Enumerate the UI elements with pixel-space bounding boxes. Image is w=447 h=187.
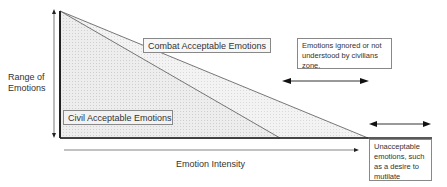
- combat-label: Combat Acceptable Emotions: [148, 41, 266, 51]
- ignored-zone-arrow-icon: [282, 78, 369, 84]
- unacceptable-note-box: Unacceptable emotions, such as a desire …: [369, 139, 432, 181]
- y-axis-label: Range of Emotions: [8, 72, 46, 94]
- y-axis-label-line2: Emotions: [8, 83, 46, 94]
- intensity-arrow-icon: [64, 148, 359, 152]
- x-axis-label: Emotion Intensity: [176, 159, 245, 170]
- unacceptable-zone-arrow-icon: [369, 121, 431, 127]
- civil-label-box: Civil Acceptable Emotions: [63, 110, 173, 125]
- range-arrow-icon: [52, 9, 56, 138]
- ignored-note-box: Emotions ignored or not understood by ci…: [297, 38, 392, 69]
- ignored-note: Emotions ignored or not understood by ci…: [302, 41, 382, 70]
- unacceptable-note: Unacceptable emotions, such as a desire …: [374, 142, 424, 181]
- civil-label: Civil Acceptable Emotions: [68, 113, 172, 123]
- combat-label-box: Combat Acceptable Emotions: [143, 38, 271, 53]
- y-axis-label-line1: Range of: [8, 72, 46, 83]
